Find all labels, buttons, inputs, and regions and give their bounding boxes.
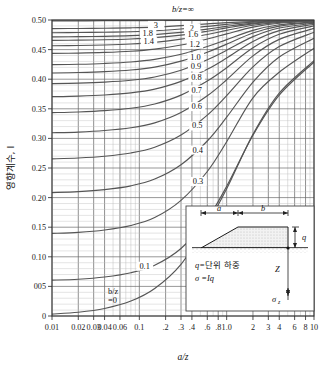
curve-label-0.4: 0.4	[192, 146, 203, 155]
x-tick-label: 0.02	[71, 323, 85, 332]
x-tick-label: 0.1	[134, 323, 144, 332]
y-tick-label: 0.35	[32, 105, 46, 114]
y-tick-label: 0.50	[32, 16, 46, 25]
curve-label-0.6: 0.6	[192, 102, 202, 111]
x-tick-label: .3	[178, 323, 184, 332]
inset-panel	[186, 206, 314, 311]
x-tick-label: 8	[303, 323, 307, 332]
x-tick-label: .2	[163, 323, 169, 332]
inset-height-q-label: q	[302, 233, 306, 242]
x-tick-label: .4	[189, 323, 195, 332]
x-tick-label: 2	[251, 323, 255, 332]
curve-label-0.7: 0.7	[192, 86, 202, 95]
inset-dim-a-label: a	[217, 204, 221, 213]
curve-label-0.8: 0.8	[191, 73, 201, 82]
curve-label-0.3: 0.3	[193, 177, 203, 186]
x-tick-label: 0.01	[45, 323, 59, 332]
inset-note-q-lead: q=	[195, 261, 205, 270]
x-tick-label: 0.06	[113, 323, 127, 332]
curve-label-0.5: 0.5	[192, 121, 202, 130]
y-tick-label: 0.40	[32, 75, 46, 84]
y-tick-label: 0	[42, 312, 46, 321]
depth-origin-dot	[286, 246, 289, 249]
x-tick-label: 6	[293, 323, 297, 332]
y-tick-label: 005	[34, 282, 46, 291]
x-tick-label: .6	[204, 323, 210, 332]
x-tick-label: 4	[277, 323, 281, 332]
x-tick-label: .8	[215, 323, 221, 332]
bottom-annotation-bz: b/z	[108, 287, 119, 296]
inset-note-unit-load: 단위 하중	[205, 260, 240, 270]
chart-svg: 00050.100.150.200.250.300.350.400.450.50…	[0, 0, 333, 367]
x-tick-label: 3	[266, 323, 270, 332]
curve-label-3: 3	[154, 21, 158, 30]
x-tick-label: 10	[310, 323, 318, 332]
soil-texture	[192, 248, 308, 253]
inset-diagram: a b q Z σ	[186, 204, 314, 311]
y-tick-label: 0.10	[32, 253, 46, 262]
bottom-annotation-zero: =0	[108, 296, 117, 305]
inset-dim-b-label: b	[261, 204, 265, 213]
top-annotation-bz-infinity: b/z=∞	[172, 4, 194, 14]
inset-depth-z-label: Z	[275, 265, 280, 274]
y-tick-label: 0.15	[32, 223, 46, 232]
x-tick-label: 0.04	[97, 323, 111, 332]
curve-label-1.6: 1.6	[188, 30, 198, 39]
inset-note-sigma-eq: σ =Iq	[195, 274, 214, 283]
y-tick-label: 0.30	[32, 134, 46, 143]
curve-label-1.2: 1.2	[189, 40, 199, 49]
y-tick-label: 0.20	[32, 194, 46, 203]
influence-factor-chart: 00050.100.150.200.250.300.350.400.450.50…	[0, 0, 333, 367]
curve-label-1.4: 1.4	[143, 37, 154, 46]
y-tick-label: 0.25	[32, 164, 46, 173]
x-axis-title: a/z	[177, 352, 188, 362]
curve-label-0.1: 0.1	[139, 262, 149, 271]
curve-label-0.9: 0.9	[191, 62, 201, 71]
curve-label-1.0: 1.0	[190, 53, 200, 62]
x-tick-label: 1.0	[222, 323, 232, 332]
y-tick-label: 0.45	[32, 46, 46, 55]
y-axis-title: 영향계수, I	[5, 146, 16, 191]
